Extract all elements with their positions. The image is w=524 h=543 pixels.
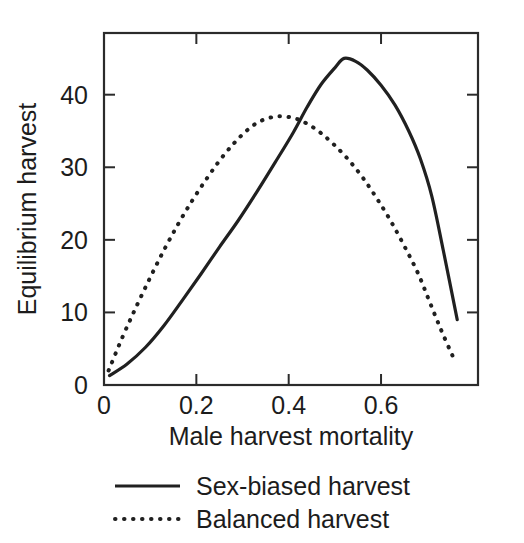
legend-label-sex-biased: Sex-biased harvest — [196, 472, 410, 500]
chart-legend: Sex-biased harvest Balanced harvest — [115, 472, 410, 533]
y-tick-label: 20 — [60, 226, 88, 254]
y-tick-label: 0 — [74, 371, 88, 399]
x-axis-ticks — [104, 33, 381, 385]
data-series-group — [109, 58, 458, 375]
x-axis-tick-labels: 00.20.40.6 — [97, 391, 398, 419]
y-tick-label: 40 — [60, 81, 88, 109]
y-axis-title: Equilibrium harvest — [13, 103, 41, 316]
x-tick-label: 0.4 — [271, 391, 306, 419]
figure-container: 010203040 00.20.40.6 Male harvest mortal… — [0, 0, 524, 543]
y-tick-label: 30 — [60, 153, 88, 181]
legend-label-balanced: Balanced harvest — [196, 505, 389, 533]
x-tick-label: 0.6 — [364, 391, 399, 419]
series-sex-biased-harvest — [110, 58, 458, 375]
y-axis-tick-labels: 010203040 — [60, 81, 88, 399]
y-tick-label: 10 — [60, 298, 88, 326]
x-axis-title: Male harvest mortality — [169, 422, 414, 450]
x-tick-label: 0 — [97, 391, 111, 419]
equilibrium-harvest-chart: 010203040 00.20.40.6 Male harvest mortal… — [0, 0, 524, 543]
x-tick-label: 0.2 — [179, 391, 214, 419]
